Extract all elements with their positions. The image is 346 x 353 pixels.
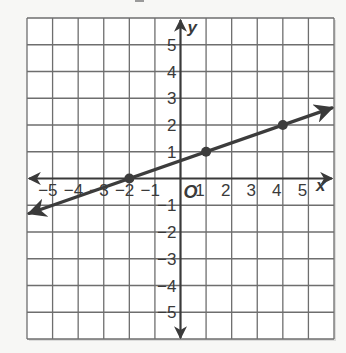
y-tick-label: 4 — [167, 63, 176, 82]
origin-label: O — [184, 182, 198, 202]
x-tick-label: 3 — [247, 181, 256, 200]
y-tick-label: 5 — [167, 36, 176, 55]
x-tick-label: 2 — [221, 181, 230, 200]
data-point — [201, 147, 211, 157]
y-tick-label: −4 — [157, 277, 176, 296]
y-tick-label: 1 — [167, 143, 176, 162]
x-tick-label: 5 — [298, 181, 307, 200]
y-axis-label: y — [187, 18, 199, 37]
coordinate-graph: −5−4−3−2−11234554321−1−2−3−4−5 x y O — [0, 0, 346, 353]
x-tick-label: −5 — [38, 181, 57, 200]
y-tick-label: −3 — [157, 250, 176, 269]
y-tick-label: −1 — [157, 196, 176, 215]
y-tick-label: 2 — [167, 116, 176, 135]
x-tick-label: 4 — [272, 181, 281, 200]
data-point — [278, 120, 288, 130]
y-tick-label: −5 — [157, 303, 176, 322]
data-point — [124, 174, 134, 184]
y-tick-label: 3 — [167, 89, 176, 108]
graph-canvas: −5−4−3−2−11234554321−1−2−3−4−5 x y O — [0, 0, 346, 353]
y-tick-label: −2 — [157, 223, 176, 242]
x-axis-label: x — [315, 176, 327, 195]
cropped-text-fragment — [135, 0, 144, 2]
